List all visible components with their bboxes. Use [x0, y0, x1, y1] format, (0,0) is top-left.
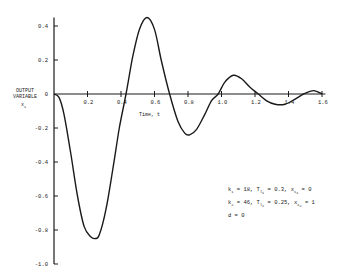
x-tick-label: 1.0 — [218, 99, 228, 106]
y-tick-label: 0.4 — [38, 23, 49, 30]
x-tick-label: 1.2 — [251, 99, 261, 106]
x-tick-label: 0.8 — [184, 99, 194, 106]
annotation-line-3: d = 0 — [228, 212, 245, 219]
response-chart: 0.20.40.60.81.01.21.41.60.40.20-0.2-0.4-… — [0, 0, 338, 275]
x-tick-label: 1.6 — [318, 99, 328, 106]
y-tick-label: -0.6 — [35, 193, 48, 200]
x-axis-title: Time, t — [139, 112, 160, 118]
y-tick-label: -1.0 — [35, 261, 48, 268]
y-tick-label: -0.8 — [35, 227, 48, 234]
chart-axes — [54, 18, 325, 265]
x-tick-label: 0.2 — [84, 99, 94, 106]
x-tick-label: 0.4 — [117, 99, 128, 106]
y-tick-label: 0 — [45, 91, 48, 98]
y-axis-title-line2: VARIABLE — [13, 94, 37, 100]
axis-ticks: 0.20.40.60.81.01.21.41.60.40.20-0.2-0.4-… — [35, 23, 328, 268]
y-tick-label: -0.4 — [35, 159, 49, 166]
y-axis-symbol: x1 — [21, 102, 26, 109]
annotation-line-1: k1 = 18, Tl1 = 0.3, xs1 = 0 — [228, 186, 312, 195]
y-tick-label: -0.2 — [35, 125, 48, 132]
parameter-annotation: k1 = 18, Tl1 = 0.3, xs1 = 0 k2 = 46, Tl2… — [228, 186, 316, 219]
y-tick-label: 0.2 — [38, 57, 48, 64]
annotation-line-2: k2 = 46, Tl2 = 0.25, xs2 = 1 — [228, 199, 316, 208]
x-tick-label: 0.6 — [151, 99, 161, 106]
